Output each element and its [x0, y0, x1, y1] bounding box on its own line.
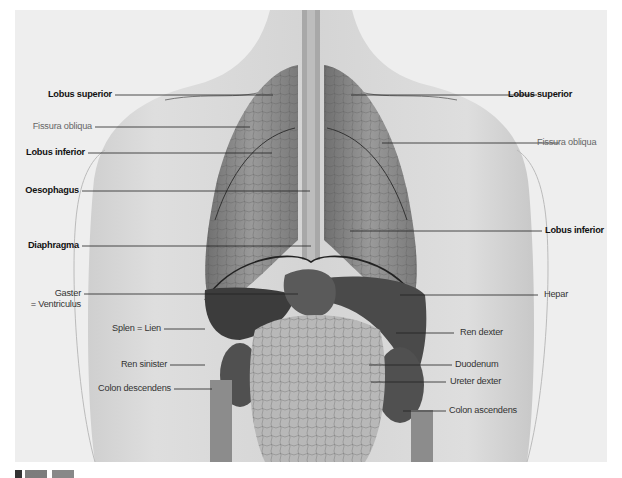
colon-ascendens-shape — [411, 410, 433, 462]
label-fissura-obliqua-right: Fissura obliqua — [537, 137, 596, 148]
label-diaphragma: Diaphragma — [15, 240, 79, 251]
label-colon-ascendens: Colon ascendens — [449, 405, 517, 416]
label-fissura-obliqua-left: Fissura obliqua — [15, 121, 92, 132]
label-splen: Splen = Lien — [15, 323, 161, 334]
label-lobus-superior-left: Lobus superior — [15, 89, 112, 100]
anatomy-illustration: Lobus superior Fissura obliqua Lobus inf… — [15, 10, 607, 462]
label-colon-descendens: Colon descendens — [15, 383, 171, 394]
caption-text-cropped — [25, 470, 115, 478]
label-gaster-ventriculus: = Ventriculus — [15, 299, 81, 310]
colon-descendens-shape — [210, 380, 232, 462]
torso-drawing — [15, 10, 607, 462]
caption-marker-icon — [15, 470, 22, 478]
label-ren-dexter: Ren dexter — [460, 327, 503, 338]
figure-caption-fragment — [15, 468, 135, 478]
label-gaster: Gaster — [15, 288, 81, 299]
label-oesophagus: Oesophagus — [15, 185, 79, 196]
label-hepar: Hepar — [544, 289, 568, 300]
label-lobus-inferior-right: Lobus inferior — [545, 225, 604, 236]
label-lobus-inferior-left: Lobus inferior — [15, 147, 85, 158]
label-lobus-superior-right: Lobus superior — [508, 89, 572, 100]
label-ren-sinister: Ren sinister — [15, 359, 167, 370]
label-duodenum: Duodenum — [455, 359, 498, 370]
label-ureter-dexter: Ureter dexter — [450, 376, 501, 387]
